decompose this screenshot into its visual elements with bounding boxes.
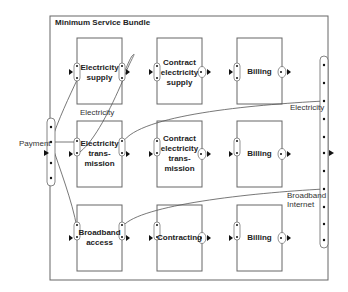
label-line: Billing bbox=[237, 67, 282, 77]
label-line: mission bbox=[157, 164, 202, 174]
label-broadband-access: Broadband access bbox=[77, 228, 122, 248]
edge-label-electricity-outer: Electricity bbox=[290, 103, 324, 112]
edge-label-internet: Internet bbox=[287, 200, 314, 209]
label-electricity-transmission: Electricity trans- mission bbox=[77, 139, 122, 169]
label-line: Billing bbox=[237, 233, 282, 243]
label-line: Broadband bbox=[77, 228, 122, 238]
edge-label-electricity-inner: Electricity bbox=[80, 108, 114, 117]
bundle-output-arrow-icon bbox=[329, 150, 334, 156]
label-line: electricity bbox=[157, 68, 202, 78]
label-line: supply bbox=[157, 78, 202, 88]
label-billing-1: Billing bbox=[237, 67, 282, 77]
label-contract-electricity-supply: Contract electricity supply bbox=[157, 58, 202, 88]
label-line: access bbox=[77, 238, 122, 248]
label-line: mission bbox=[77, 159, 122, 169]
label-line: Contracting bbox=[157, 233, 202, 243]
label-line: Contract bbox=[157, 134, 202, 144]
label-billing-2: Billing bbox=[237, 149, 282, 159]
label-line: trans- bbox=[77, 149, 122, 159]
label-line: supply bbox=[77, 73, 122, 83]
label-electricity-supply: Electricity supply bbox=[77, 63, 122, 83]
label-line: electricity bbox=[157, 144, 202, 154]
label-line: Electricity bbox=[77, 63, 122, 73]
label-line: Billing bbox=[237, 149, 282, 159]
label-line: Contract bbox=[157, 58, 202, 68]
label-contracting: Contracting bbox=[157, 233, 202, 243]
edge-label-payment: Payment bbox=[19, 139, 51, 148]
label-contract-electricity-transmission: Contract electricity trans- mission bbox=[157, 134, 202, 174]
label-line: trans- bbox=[157, 154, 202, 164]
label-billing-3: Billing bbox=[237, 233, 282, 243]
edge-label-broadband: Broadband bbox=[287, 191, 326, 200]
label-line: Electricity bbox=[77, 139, 122, 149]
bundle-title: Minimum Service Bundle bbox=[55, 18, 150, 27]
